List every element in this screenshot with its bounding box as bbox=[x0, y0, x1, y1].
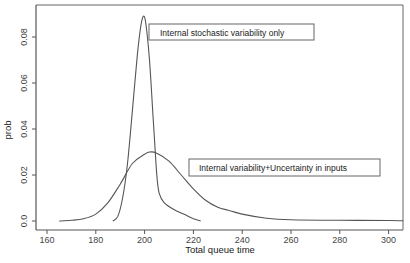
x-tick-label: 300 bbox=[381, 235, 396, 245]
x-axis-title: Total queue time bbox=[185, 244, 255, 255]
x-tick-label: 160 bbox=[39, 235, 54, 245]
series-narrow-curve bbox=[113, 16, 201, 221]
x-tick-label: 200 bbox=[137, 235, 152, 245]
y-tick-label: 0.02 bbox=[19, 166, 29, 184]
annotation-narrow-label: Internal stochastic variability only bbox=[160, 28, 285, 38]
x-tick-label: 180 bbox=[88, 235, 103, 245]
y-tick-label: 0.04 bbox=[19, 120, 29, 138]
annotation-wide: Internal variability+Uncertainty in inpu… bbox=[189, 159, 380, 176]
y-tick-label: 0.06 bbox=[19, 74, 29, 92]
y-axis-title: prob bbox=[2, 120, 13, 139]
y-axis-ticks: 0.00.020.040.060.08 bbox=[19, 28, 36, 227]
annotation-narrow: Internal stochastic variability only bbox=[149, 24, 314, 40]
x-tick-label: 280 bbox=[332, 235, 347, 245]
annotation-wide-label: Internal variability+Uncertainty in inpu… bbox=[199, 163, 347, 173]
x-tick-label: 260 bbox=[283, 235, 298, 245]
series-layer bbox=[59, 16, 403, 221]
y-tick-label: 0.0 bbox=[19, 215, 29, 228]
x-axis-ticks: 160180200220240260280300 bbox=[39, 230, 396, 245]
y-tick-label: 0.08 bbox=[19, 28, 29, 46]
density-chart: 160180200220240260280300 0.00.020.040.06… bbox=[0, 0, 410, 263]
